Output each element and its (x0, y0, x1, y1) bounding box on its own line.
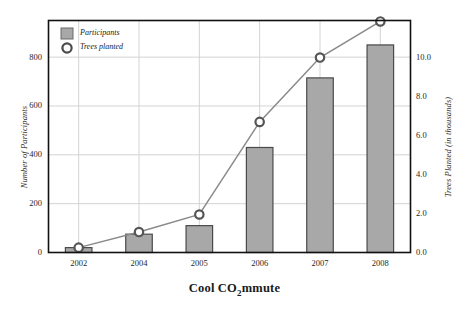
bar (367, 45, 394, 253)
x-axis-tick-label: 2005 (169, 258, 229, 268)
x-axis-tick-label: 2002 (49, 258, 109, 268)
y-axis-right-tick-label: 0.0 (416, 247, 456, 257)
x-axis-tick-label: 2006 (230, 258, 290, 268)
chart-container: Number of Participants Trees Planted (in… (0, 0, 469, 310)
y-axis-left-tick-label: 0 (2, 247, 42, 257)
bar (246, 147, 273, 252)
data-point-marker (316, 53, 324, 61)
x-axis-tick-label: 2007 (290, 258, 350, 268)
x-axis-tick-label: 2008 (350, 258, 410, 268)
data-point-marker (376, 17, 384, 25)
data-point-marker (74, 243, 82, 251)
y-axis-left-tick-label: 600 (2, 100, 42, 110)
bar (307, 78, 334, 253)
y-axis-left-tick-label: 400 (2, 149, 42, 159)
bar (186, 226, 213, 253)
circle-marker-icon (62, 43, 71, 52)
data-point-marker (135, 228, 143, 236)
y-axis-left-tick-label: 800 (2, 52, 42, 62)
data-point-marker (195, 210, 203, 218)
y-axis-right-tick-label: 6.0 (416, 130, 456, 140)
y-axis-right-tick-label: 4.0 (416, 169, 456, 179)
y-axis-right-tick-label: 10.0 (416, 52, 456, 62)
y-axis-left-tick-label: 200 (2, 198, 42, 208)
legend-label-participants: Participants (80, 28, 120, 37)
square-swatch-icon (61, 28, 73, 39)
legend-label-trees-planted: Trees planted (80, 42, 123, 51)
x-axis-tick-label: 2004 (109, 258, 169, 268)
bar-series-participants (65, 45, 393, 253)
y-axis-right-tick-label: 2.0 (416, 208, 456, 218)
y-axis-right-tick-label: 8.0 (416, 91, 456, 101)
data-point-marker (255, 118, 263, 126)
